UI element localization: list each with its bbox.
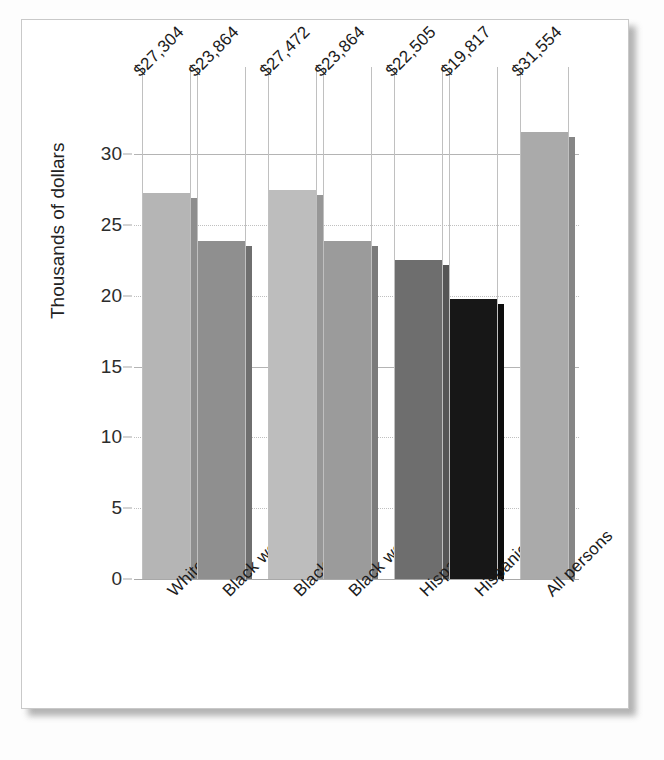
gridline-vertical (449, 67, 450, 579)
y-axis-tick-label: 10 (101, 426, 122, 448)
bar (268, 190, 323, 579)
bar-face (323, 241, 371, 579)
bar-side-shadow (245, 246, 252, 579)
bar-face (520, 132, 568, 579)
plot-area: 051015202530$27,304White women$23,864Bla… (134, 119, 566, 579)
bar-value-label: $23,864 (185, 22, 244, 81)
bar (394, 260, 449, 579)
y-axis-tick-mark (123, 225, 132, 226)
y-axis-tick-mark (123, 508, 132, 509)
bar-face (268, 190, 316, 579)
y-axis-tick-label: 15 (101, 356, 122, 378)
gridline-vertical (245, 67, 246, 579)
bar-face (449, 299, 497, 579)
bar-value-label: $27,304 (130, 22, 189, 81)
gridline-vertical (190, 67, 191, 579)
bar-value-label: $22,505 (382, 22, 441, 81)
gridline-vertical (520, 67, 521, 579)
bar (520, 132, 575, 579)
bar-side-shadow (371, 246, 378, 579)
gridline-vertical (497, 67, 498, 579)
y-axis-tick-mark (123, 366, 132, 367)
x-axis-category-label: All persons (542, 587, 556, 601)
y-axis-title: Thousands of dollars (47, 143, 69, 319)
x-axis-category-label: Black men (290, 587, 304, 601)
x-axis-category-label: Black women (345, 587, 359, 601)
scanned-page: Thousands of dollars 051015202530$27,304… (0, 0, 664, 760)
gridline-vertical (323, 67, 324, 579)
gridline-vertical (142, 67, 143, 579)
bar-side-shadow (568, 137, 575, 579)
gridline-vertical (197, 67, 198, 579)
y-axis-tick-label: 0 (111, 568, 122, 590)
y-axis-tick-mark (123, 295, 132, 296)
bar-side-shadow (497, 304, 504, 579)
gridline-vertical (568, 67, 569, 579)
bar-value-label: $19,817 (437, 22, 496, 81)
gridline-vertical (316, 67, 317, 579)
gridline-vertical (394, 67, 395, 579)
y-axis-tick-label: 20 (101, 285, 122, 307)
bar (449, 299, 504, 579)
bar-side-shadow (442, 265, 449, 579)
bar-chart: Thousands of dollars 051015202530$27,304… (21, 19, 629, 709)
gridline-horizontal (134, 154, 579, 155)
bar-side-shadow (190, 198, 197, 579)
bar (197, 241, 252, 579)
y-axis-tick-mark (123, 437, 132, 438)
x-axis-category-label: Black women (219, 587, 233, 601)
y-axis-tick-label: 30 (101, 143, 122, 165)
y-axis-tick-label: 25 (101, 214, 122, 236)
y-axis-tick-mark (123, 579, 132, 580)
bar-face (142, 193, 190, 579)
y-axis-tick-mark (123, 154, 132, 155)
gridline-vertical (371, 67, 372, 579)
bar-value-label: $23,864 (311, 22, 370, 81)
x-axis-category-label: Hispanic women (471, 587, 485, 601)
gridline-horizontal (134, 225, 579, 226)
gridline-vertical (442, 67, 443, 579)
x-axis-category-label: Hispanic men (416, 587, 430, 601)
y-axis-tick-label: 5 (111, 497, 122, 519)
gridline-vertical (268, 67, 269, 579)
bar (142, 193, 197, 579)
bar-value-label: $31,554 (508, 22, 567, 81)
x-axis-category-label: White women (164, 587, 178, 601)
bar (323, 241, 378, 579)
bar-face (394, 260, 442, 579)
bar-face (197, 241, 245, 579)
bar-side-shadow (316, 195, 323, 579)
bar-value-label: $27,472 (256, 22, 315, 81)
